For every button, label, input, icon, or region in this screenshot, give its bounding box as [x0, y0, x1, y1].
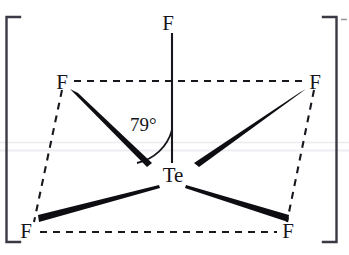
wedge-upper-right [194, 89, 306, 167]
structure-figure: F F F F F Te 79° [0, 0, 349, 255]
atom-label-upper-left-f: F [56, 70, 68, 94]
scanline-artifacts [0, 143, 349, 151]
atom-label-upper-right-f: F [309, 70, 321, 94]
guide-right-edge [287, 90, 314, 222]
structure-canvas: F F F F F Te 79° [0, 0, 349, 255]
bond-angle-label: 79° [130, 114, 157, 135]
atom-label-lower-right-f: F [282, 219, 294, 243]
atom-label-axial-f: F [162, 11, 174, 35]
atom-label-center-te: Te [163, 163, 184, 187]
wedge-lower-right [185, 185, 289, 222]
bracket-left [7, 17, 21, 242]
wedge-lower-left [38, 185, 160, 222]
guide-left-edge [34, 90, 62, 222]
bracket-right [323, 17, 337, 242]
atom-label-lower-left-f: F [20, 219, 32, 243]
